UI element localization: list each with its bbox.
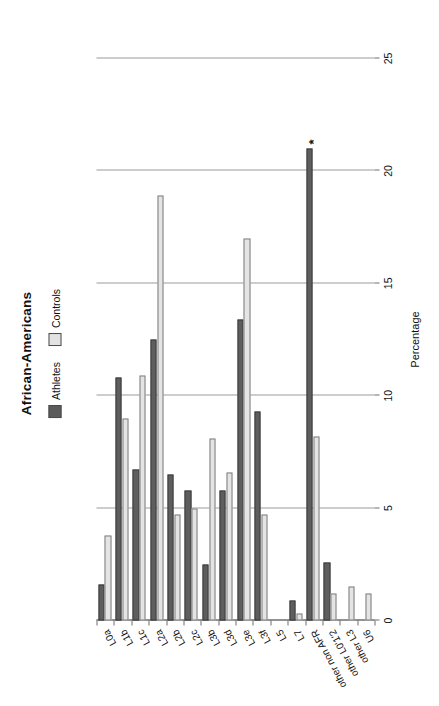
bar-athletes-L1b — [115, 377, 121, 620]
bar-controls-L1b — [122, 418, 128, 620]
value-tick-label-10: 10 — [381, 389, 393, 401]
legend-label-athletes: Athletes — [49, 362, 61, 400]
value-tick-label-15: 15 — [381, 277, 393, 289]
bar-group — [270, 58, 287, 620]
value-tick-15 — [374, 282, 379, 283]
bar-chart-figure: African-Americans Athletes Controls L0aL… — [0, 0, 439, 706]
bar-athletes-L2a — [150, 339, 156, 620]
value-tick-label-25: 25 — [381, 52, 393, 64]
value-tick-label-5: 5 — [381, 505, 393, 511]
bar-group — [252, 58, 269, 620]
category-tick — [113, 620, 114, 625]
category-tick — [148, 620, 149, 625]
bar-controls-L0a — [104, 535, 110, 620]
bar-controls-L3e — [243, 238, 249, 620]
rotated-figure-stage: African-Americans Athletes Controls L0aL… — [0, 0, 439, 706]
athletes-swatch-icon — [48, 405, 61, 418]
bar-athletes-other-L0-1-2 — [323, 562, 329, 620]
category-tick — [270, 620, 271, 625]
plot-area: L0aL1bL1cL2aL2bL2cL3bL3dL3eL3fL5L7other … — [96, 58, 374, 620]
bar-controls-U6 — [365, 593, 371, 620]
bar-group — [218, 58, 235, 620]
bar-group — [96, 58, 113, 620]
bar-athletes-L3f — [254, 411, 260, 620]
category-tick — [252, 620, 253, 625]
bar-group — [235, 58, 252, 620]
category-label-L2a: L2a — [152, 627, 170, 647]
bar-group — [113, 58, 130, 620]
bar-controls-other-non-AFR — [313, 436, 319, 620]
bar-controls-other-L3 — [348, 586, 354, 620]
bar-athletes-L2c — [184, 490, 190, 620]
bar-group — [131, 58, 148, 620]
bar-athletes-L3d — [219, 490, 225, 620]
bar-athletes-L3e — [237, 319, 243, 620]
bar-athletes-L7 — [289, 600, 295, 620]
bar-controls-L3d — [226, 472, 232, 620]
value-axis-title: Percentage — [408, 58, 420, 620]
category-tick — [218, 620, 219, 625]
bar-controls-L2a — [157, 195, 163, 620]
bar-controls-L1c — [139, 375, 145, 620]
bar-controls-L2b — [174, 514, 180, 620]
value-tick-20 — [374, 169, 379, 170]
category-label-L3f: L3f — [256, 627, 272, 644]
chart-legend: Athletes Controls — [48, 288, 61, 417]
bar-group — [148, 58, 165, 620]
category-label-U6: U6 — [360, 627, 376, 643]
category-label-L7: L7 — [291, 627, 306, 642]
value-tick-25 — [374, 57, 379, 58]
bar-controls-L3f — [261, 514, 267, 620]
category-tick — [131, 620, 132, 625]
category-tick — [374, 620, 375, 625]
category-tick — [166, 620, 167, 625]
legend-label-controls: Controls — [49, 288, 61, 327]
category-label-L1c: L1c — [135, 627, 152, 646]
bar-controls-L2c — [191, 508, 197, 620]
category-tick — [200, 620, 201, 625]
category-tick — [322, 620, 323, 625]
legend-item-athletes[interactable]: Athletes — [48, 362, 61, 418]
bar-athletes-L2b — [167, 474, 173, 620]
controls-swatch-icon — [48, 333, 61, 346]
bar-controls-L7 — [296, 613, 302, 620]
category-label-L2c: L2c — [187, 627, 204, 646]
category-label-L3d: L3d — [221, 627, 239, 647]
bar-group — [200, 58, 217, 620]
category-tick — [357, 620, 358, 625]
bar-group — [183, 58, 200, 620]
bar-athletes-L1c — [132, 469, 138, 620]
bar-athletes-L3b — [202, 564, 208, 620]
significance-asterisk: * — [306, 139, 319, 144]
bar-athletes-L0a — [98, 584, 104, 620]
category-label-L3e: L3e — [239, 627, 257, 647]
category-tick — [287, 620, 288, 625]
value-tick-label-0: 0 — [381, 617, 393, 623]
value-tick-0 — [374, 619, 379, 620]
value-tick-5 — [374, 507, 379, 508]
category-tick — [235, 620, 236, 625]
category-label-L2b: L2b — [169, 627, 187, 647]
category-label-L1b: L1b — [117, 627, 135, 647]
bar-controls-L3b — [209, 438, 215, 620]
category-tick — [96, 620, 97, 625]
bar-controls-other-L0-1-2 — [330, 593, 336, 620]
category-label-L3b: L3b — [204, 627, 222, 647]
plot-inner: L0aL1bL1cL2aL2bL2cL3bL3dL3eL3fL5L7other … — [96, 58, 374, 620]
category-tick — [339, 620, 340, 625]
category-label-L0a: L0a — [100, 627, 118, 647]
legend-item-controls[interactable]: Controls — [48, 288, 61, 345]
bar-group — [339, 58, 356, 620]
bar-group — [166, 58, 183, 620]
category-tick — [305, 620, 306, 625]
bar-group — [287, 58, 304, 620]
value-tick-label-20: 20 — [381, 165, 393, 177]
bar-group — [357, 58, 374, 620]
category-tick — [183, 620, 184, 625]
category-label-L5: L5 — [274, 627, 289, 642]
bar-athletes-other-non-AFR — [306, 148, 312, 620]
bar-group — [322, 58, 339, 620]
chart-title: African-Americans — [18, 0, 33, 706]
value-tick-10 — [374, 394, 379, 395]
